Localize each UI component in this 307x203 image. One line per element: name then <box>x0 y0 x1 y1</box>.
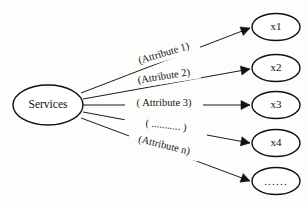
node-label-xn: ...... <box>264 175 288 187</box>
edge-label-group-x3: ( Attribute 3) <box>125 97 203 111</box>
node-x4[interactable]: x4 <box>252 130 300 157</box>
node-services[interactable]: Services <box>13 85 83 125</box>
arrowhead-x2 <box>240 66 250 75</box>
node-xn[interactable]: ...... <box>252 168 300 195</box>
node-label-x4: x4 <box>271 136 283 148</box>
node-label-x1: x1 <box>271 20 282 32</box>
node-x2[interactable]: x2 <box>252 55 300 82</box>
arrowheads-layer <box>240 27 250 182</box>
node-label-x3: x3 <box>271 98 283 110</box>
node-label-x2: x2 <box>271 61 282 73</box>
edge-label-text: (Attribute n) <box>137 133 192 158</box>
arrowhead-x1 <box>240 27 250 36</box>
diagram-canvas: (Attribute 1)(Attribute 2)( Attribute 3)… <box>0 0 307 203</box>
arrowhead-x3 <box>241 100 250 109</box>
node-label-services: Services <box>29 98 68 110</box>
arrowhead-x4 <box>240 137 250 146</box>
edge-label-text: ( Attribute 3) <box>137 97 192 109</box>
services-attributes-diagram: (Attribute 1)(Attribute 2)( Attribute 3)… <box>0 0 307 203</box>
edge-labels-layer: (Attribute 1)(Attribute 2)( Attribute 3)… <box>124 37 209 162</box>
arrowhead-xn <box>240 174 250 183</box>
node-x3[interactable]: x3 <box>252 92 300 119</box>
node-x1[interactable]: x1 <box>252 14 300 41</box>
